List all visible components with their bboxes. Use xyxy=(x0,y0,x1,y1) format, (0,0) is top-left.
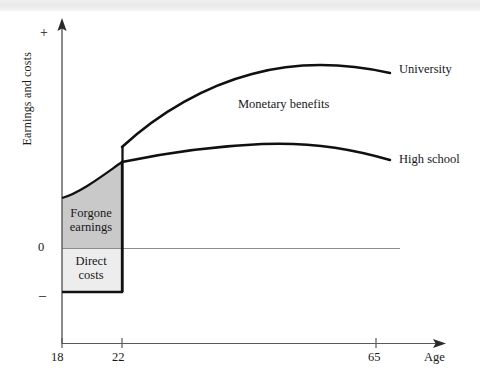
forgone-earnings-line-1: Forgone xyxy=(70,206,111,220)
direct-costs-line-1: Direct xyxy=(75,254,106,268)
y-axis-zero-label: 0 xyxy=(38,240,44,254)
x-tick-label-65: 65 xyxy=(368,350,381,364)
forgone-earnings-region xyxy=(62,162,122,248)
series-label-high-school: High school xyxy=(399,152,460,166)
x-axis-title: Age xyxy=(424,350,445,364)
x-tick-label-22: 22 xyxy=(112,350,125,364)
y-axis-title: Earnings and costs xyxy=(21,39,34,159)
y-axis-plus-label: + xyxy=(40,25,48,41)
x-tick-label-18: 18 xyxy=(51,350,64,364)
y-axis-minus-label: – xyxy=(39,288,46,304)
annotation-direct-costs: Direct costs xyxy=(58,254,124,282)
annotation-forgone-earnings: Forgone earnings xyxy=(58,206,124,234)
series-label-university: University xyxy=(399,62,452,76)
forgone-earnings-line-2: earnings xyxy=(70,220,112,234)
high-school-curve xyxy=(122,144,390,162)
figure-root: Earnings and costs + 0 – 18 22 65 Age Un… xyxy=(0,0,480,376)
direct-costs-line-2: costs xyxy=(79,268,104,282)
chart-canvas xyxy=(0,0,480,376)
annotation-monetary-benefits: Monetary benefits xyxy=(238,97,329,111)
